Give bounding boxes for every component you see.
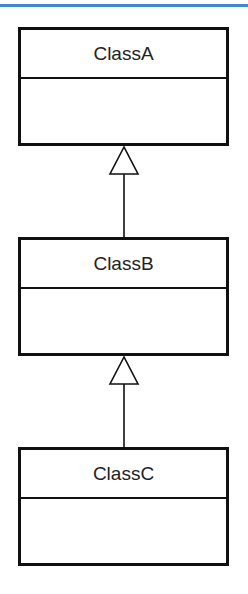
arrow-b-to-a	[110, 147, 138, 237]
arrow-c-to-b	[110, 357, 138, 447]
generalization-arrows	[0, 0, 248, 594]
